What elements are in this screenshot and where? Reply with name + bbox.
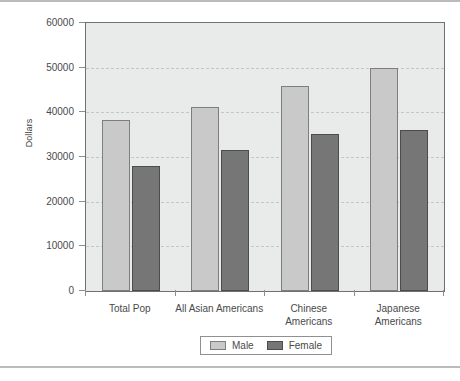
- bar-male-3: [281, 86, 309, 291]
- x-axis-tick-mark: [85, 290, 86, 296]
- bar-female-2: [221, 150, 249, 291]
- female-swatch: [267, 341, 283, 350]
- y-axis-tick-label: 20000: [24, 195, 74, 206]
- chart-legend: MaleFemale: [200, 336, 332, 355]
- legend-label: Female: [289, 340, 322, 351]
- male-swatch: [210, 341, 226, 350]
- plot-area: [85, 22, 445, 292]
- bar-male-4: [370, 68, 398, 291]
- x-axis-category-label-line: Japanese: [343, 302, 453, 315]
- bar-female-1: [132, 166, 160, 292]
- x-axis-tick-mark: [443, 290, 444, 296]
- y-axis-tick-labels: 0100002000030000400005000060000: [22, 0, 74, 381]
- y-axis-tick-label: 50000: [24, 61, 74, 72]
- y-axis-tick-label: 60000: [24, 17, 74, 28]
- plot-inner: [86, 23, 444, 291]
- x-axis-category-label: JapaneseAmericans: [343, 302, 453, 328]
- bar-male-1: [102, 120, 130, 291]
- legend-item-male[interactable]: Male: [210, 340, 254, 351]
- x-axis-category-label-line: Americans: [343, 315, 453, 328]
- legend-item-female[interactable]: Female: [267, 340, 322, 351]
- y-axis-tick-label: 40000: [24, 106, 74, 117]
- x-axis-tick-mark: [264, 290, 265, 296]
- bar-female-4: [400, 130, 428, 291]
- chart-figure: Dollars 0100002000030000400005000060000 …: [0, 0, 460, 381]
- x-axis-tick-mark: [175, 290, 176, 296]
- bar-female-3: [311, 134, 339, 291]
- legend-label: Male: [232, 340, 254, 351]
- bar-male-2: [191, 107, 219, 291]
- y-axis-tick-label: 30000: [24, 151, 74, 162]
- x-axis-tick-mark: [354, 290, 355, 296]
- y-axis-tick-label: 0: [24, 285, 74, 296]
- y-axis-tick-label: 10000: [24, 240, 74, 251]
